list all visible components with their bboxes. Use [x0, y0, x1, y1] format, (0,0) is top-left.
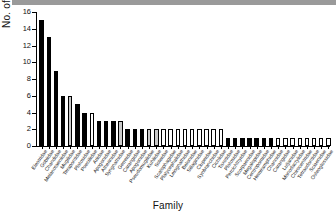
y-tick-mark — [32, 146, 36, 147]
y-tick-mark — [32, 62, 36, 63]
bar — [197, 129, 201, 146]
y-tick-mark — [32, 46, 36, 47]
y-tick-label: 8 — [27, 75, 31, 83]
bar — [183, 129, 187, 146]
bar — [90, 113, 94, 147]
bar — [240, 138, 244, 146]
bar — [75, 104, 79, 146]
y-tick-label: 12 — [23, 42, 31, 50]
y-tick-label: 2 — [27, 126, 31, 134]
bar — [190, 129, 194, 146]
bar — [219, 129, 223, 146]
bar — [47, 37, 51, 146]
y-axis-label: No. of species — [1, 0, 12, 28]
bar — [154, 129, 158, 146]
bar — [125, 129, 129, 146]
y-tick-mark — [32, 79, 36, 80]
bar — [233, 138, 237, 146]
bar — [226, 138, 230, 146]
bar — [68, 96, 72, 146]
scan-artifact-strip — [10, 0, 336, 5]
bar — [111, 121, 115, 146]
bar — [305, 138, 309, 146]
bar — [319, 138, 323, 146]
bar — [283, 138, 287, 146]
bar — [161, 129, 165, 146]
bar — [247, 138, 251, 146]
y-tick-mark — [32, 12, 36, 13]
bar — [262, 138, 266, 146]
y-tick-mark — [32, 96, 36, 97]
bar — [290, 138, 294, 146]
bar — [104, 121, 108, 146]
y-tick-label: 16 — [23, 8, 31, 16]
x-axis-label: Family — [0, 200, 336, 211]
bar — [140, 129, 144, 146]
y-tick-mark — [32, 29, 36, 30]
bar — [54, 71, 58, 146]
bar — [312, 138, 316, 146]
bar — [254, 138, 258, 146]
bar — [82, 113, 86, 147]
y-tick-label: 0 — [27, 142, 31, 150]
y-tick-label: 6 — [27, 92, 31, 100]
bar — [211, 129, 215, 146]
y-tick-label: 4 — [27, 109, 31, 117]
plot-area: 0246810121416 EleotridaeGobiidaeChandida… — [36, 12, 330, 146]
bar — [168, 129, 172, 146]
y-tick-label: 10 — [23, 59, 31, 67]
bar — [61, 96, 65, 146]
bar — [204, 129, 208, 146]
bar — [133, 129, 137, 146]
bar — [118, 121, 122, 146]
bar — [147, 129, 151, 146]
y-tick-mark — [32, 113, 36, 114]
bar — [269, 138, 273, 146]
figure-bar-chart-species-per-family: No. of species Family 0246810121416 Eleo… — [0, 0, 336, 222]
bar — [326, 138, 330, 146]
bar — [176, 129, 180, 146]
bar — [298, 138, 302, 146]
y-tick-label: 14 — [23, 25, 31, 33]
bar — [276, 138, 280, 146]
y-axis-line — [36, 12, 37, 146]
y-tick-mark — [32, 129, 36, 130]
bar — [39, 20, 43, 146]
bar — [97, 121, 101, 146]
